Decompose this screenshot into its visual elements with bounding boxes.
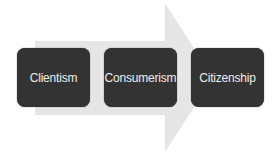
step-label: Consumerism [105, 71, 177, 85]
step-citizenship: Citizenship [191, 48, 264, 107]
step-consumerism: Consumerism [104, 48, 177, 107]
step-label: Clientism [30, 71, 78, 85]
step-label: Citizenship [199, 71, 256, 85]
step-clientism: Clientism [17, 48, 90, 107]
